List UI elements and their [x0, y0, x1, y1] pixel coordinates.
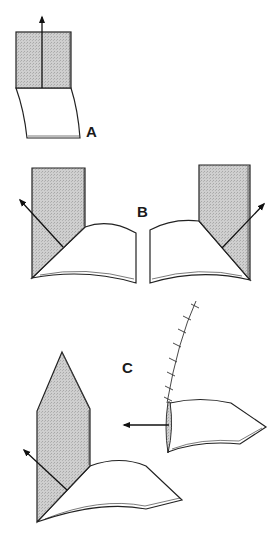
panel-c-right-flap — [168, 400, 266, 453]
suture-stitch-icons — [164, 304, 199, 401]
panel-b-right — [150, 165, 264, 283]
panel-a-base-flap — [16, 88, 80, 138]
panel-a-shaded-flap — [16, 32, 71, 88]
panel-a-label: A — [86, 124, 97, 139]
panel-a — [16, 17, 80, 138]
panel-b-left — [20, 168, 136, 283]
panel-c-label: C — [122, 360, 133, 375]
surgical-flap-diagram: A B C — [0, 0, 280, 535]
panel-c-left — [24, 352, 182, 522]
panel-b-label: B — [137, 204, 148, 219]
panel-c-suture-line — [167, 301, 196, 403]
diagram-drawing — [0, 0, 280, 535]
panel-c-right — [124, 301, 266, 453]
